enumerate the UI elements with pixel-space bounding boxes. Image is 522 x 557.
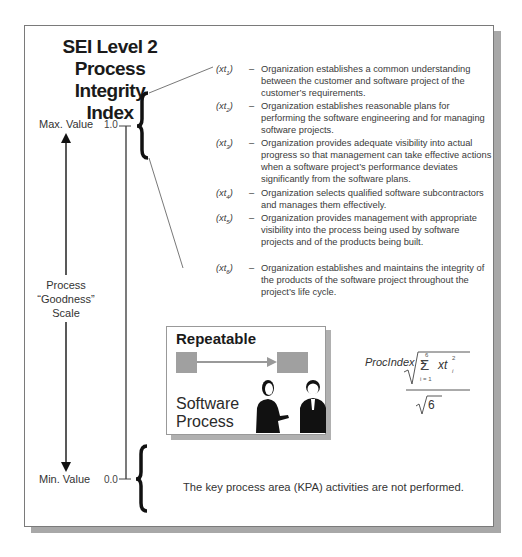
sum-lower-bound: i = 1 (420, 376, 432, 382)
repeatable-title: Repeatable (176, 330, 256, 347)
sigma-icon: Σ (420, 356, 429, 373)
people-figures-icon (248, 378, 328, 433)
goodness-arrow-icon (61, 133, 71, 472)
item-description: Organization establishes reasonable plan… (261, 100, 496, 136)
item-description: Organization establishes a common unders… (261, 63, 496, 99)
process-box-right-icon (277, 352, 308, 373)
axis-line-icon (119, 126, 131, 479)
process-arrow-icon (197, 356, 279, 368)
sum-term: xt (438, 358, 447, 372)
connector-line-top (149, 67, 213, 93)
connector-line-bottom (149, 158, 183, 268)
process-box-left-icon (176, 352, 197, 373)
formula-fraction-icon (402, 350, 472, 420)
term-subscript: i (452, 368, 453, 374)
item-description: Organization selects qualified software … (261, 187, 496, 211)
formula-denominator: 6 (428, 398, 435, 412)
term-superscript: 2 (452, 355, 455, 361)
item-description: Organization establishes and maintains t… (261, 262, 496, 298)
diagram-canvas: SEI Level 2 Process Integrity Index Max.… (0, 0, 522, 557)
bottom-brace-icon (136, 446, 147, 511)
software-process-label: Software Process (176, 395, 239, 431)
top-brace-icon (137, 93, 148, 158)
item-description: Organization provides adequate visibilit… (261, 137, 496, 185)
item-description: Organization provides management with ap… (261, 212, 496, 248)
min-value-description: The key process area (KPA) activities ar… (183, 481, 464, 493)
